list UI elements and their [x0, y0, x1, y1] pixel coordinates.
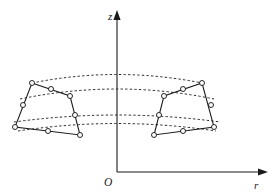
r-axis-arrowhead	[258, 168, 268, 175]
mesh-node-marker	[68, 94, 73, 99]
mesh-node-marker	[181, 87, 186, 92]
mesh-node-marker	[21, 103, 26, 108]
mesh-node-marker	[212, 125, 217, 130]
mesh-node-marker	[181, 129, 186, 134]
left-element-nodes	[13, 81, 83, 138]
figure-container: z r O	[0, 0, 271, 196]
right-element-group	[152, 81, 217, 138]
axisymmetric-mesh-diagram: z r O	[0, 0, 271, 196]
axes-group: z r O	[104, 10, 268, 191]
mesh-node-marker	[162, 94, 167, 99]
mesh-node-marker	[157, 113, 162, 118]
z-axis-arrowhead	[113, 10, 120, 20]
r-axis-label: r	[254, 179, 259, 191]
left-element-group	[13, 81, 83, 138]
origin-label: O	[104, 176, 113, 188]
mesh-node-marker	[73, 113, 78, 118]
mesh-node-marker	[49, 87, 54, 92]
mesh-node-marker	[78, 133, 83, 138]
mesh-node-marker	[30, 81, 35, 86]
right-element-nodes	[152, 81, 217, 138]
mesh-node-marker	[46, 129, 51, 134]
mesh-node-marker	[13, 125, 18, 130]
mesh-node-marker	[200, 81, 205, 86]
mesh-node-marker	[152, 133, 157, 138]
z-axis-label: z	[107, 10, 113, 22]
mesh-node-marker	[209, 103, 214, 108]
